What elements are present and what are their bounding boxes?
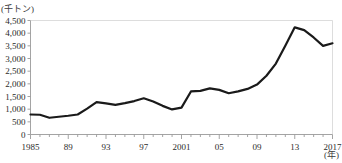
svg-text:4,500: 4,500 [5, 16, 26, 26]
data-series-line [31, 27, 333, 117]
svg-text:93: 93 [102, 142, 112, 152]
svg-text:1985: 1985 [22, 142, 41, 152]
svg-text:4,000: 4,000 [5, 28, 26, 38]
x-axis-unit-label: (年) [324, 150, 339, 160]
axis-lines [31, 21, 333, 135]
svg-text:3,500: 3,500 [5, 41, 26, 51]
line-chart-plot: 05001,0001,5002,0002,5003,0003,5004,0004… [0, 0, 342, 163]
svg-text:13: 13 [290, 142, 300, 152]
tick-marks [28, 21, 333, 140]
svg-text:97: 97 [139, 142, 149, 152]
svg-text:09: 09 [253, 142, 263, 152]
svg-text:2,000: 2,000 [5, 79, 26, 89]
svg-text:05: 05 [215, 142, 225, 152]
svg-text:2001: 2001 [173, 142, 191, 152]
svg-text:1,000: 1,000 [5, 104, 26, 114]
y-axis-tick-labels: 05001,0001,5002,0002,5003,0003,5004,0004… [5, 16, 26, 140]
svg-text:89: 89 [64, 142, 74, 152]
svg-text:1,500: 1,500 [5, 92, 26, 102]
svg-text:0: 0 [21, 130, 26, 140]
svg-text:2,500: 2,500 [5, 66, 26, 76]
svg-text:500: 500 [12, 117, 26, 127]
svg-text:3,000: 3,000 [5, 54, 26, 64]
chart-screenshot: (千トン) 05001,0001,5002,0002,5003,0003,500… [0, 0, 342, 163]
x-axis-tick-labels: 198589939720010509132017 [22, 142, 342, 152]
